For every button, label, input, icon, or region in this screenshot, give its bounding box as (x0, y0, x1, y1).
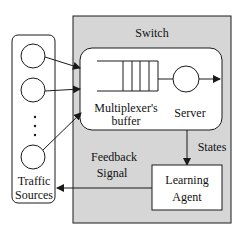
switch-diagram: Switch Multiplexer's buffer Server Traff… (0, 0, 243, 235)
learning-agent-label-line1: Learning (165, 173, 208, 187)
feedback-label-line2: Signal (97, 166, 128, 180)
traffic-source-1-icon (21, 44, 45, 68)
feedback-label-line1: Feedback (91, 150, 137, 164)
traffic-source-2-icon (21, 78, 45, 102)
traffic-label-line2: Sources (15, 188, 53, 202)
buffer-label-line2: buffer (111, 114, 140, 128)
server-circle-icon (173, 66, 199, 92)
switch-label: Switch (135, 26, 168, 40)
traffic-source-n-icon (21, 145, 45, 169)
buffer-label-line1: Multiplexer's (94, 101, 158, 115)
states-label: States (198, 140, 227, 154)
learning-agent-label-line2: Agent (172, 190, 202, 204)
server-label: Server (174, 106, 205, 120)
traffic-label-line1: Traffic (18, 174, 51, 188)
